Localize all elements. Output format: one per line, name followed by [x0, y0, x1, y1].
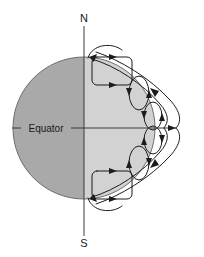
- equator-label: Equator: [28, 123, 64, 134]
- south-pole-label: S: [80, 237, 87, 249]
- north-pole-label: N: [80, 12, 88, 24]
- north-inner-loop-right-arrowhead: [159, 113, 165, 121]
- south-outer-field-arrowhead: [150, 159, 159, 168]
- magnetic-field-diagram: N S Equator: [0, 0, 204, 257]
- equator-arrowhead: [168, 125, 176, 131]
- north-outer-field-arrowhead: [150, 88, 159, 97]
- diagram-canvas: N S Equator: [0, 0, 204, 257]
- south-inner-loop-right-arrowhead: [159, 135, 165, 143]
